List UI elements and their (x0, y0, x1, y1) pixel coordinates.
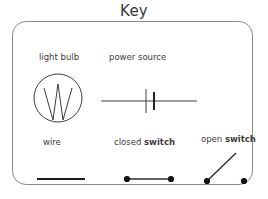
open-switch-symbol-icon (201, 150, 257, 188)
legend-label-closed-switch-prefix: closed (114, 137, 144, 147)
legend-label-wire: wire (43, 137, 61, 147)
legend-label-closed-switch-emphasis: switch (144, 137, 175, 147)
power-source-symbol-icon (101, 88, 197, 114)
wire-symbol-icon (37, 174, 85, 184)
legend-label-closed-switch: closed switch (114, 137, 175, 147)
legend-label-power-source: power source (109, 52, 166, 62)
page-title: Key (0, 2, 268, 20)
key-legend-box: light bulb power source wire closed swit… (12, 21, 253, 185)
light-bulb-symbol-icon (32, 72, 84, 124)
legend-label-light-bulb: light bulb (39, 52, 79, 62)
key-diagram-page: Key light bulb power source wire closed … (0, 0, 268, 199)
legend-label-open-switch: open switch (201, 134, 256, 144)
legend-label-open-switch-prefix: open (201, 134, 225, 144)
legend-label-open-switch-emphasis: switch (225, 134, 256, 144)
closed-switch-symbol-icon (121, 172, 177, 186)
